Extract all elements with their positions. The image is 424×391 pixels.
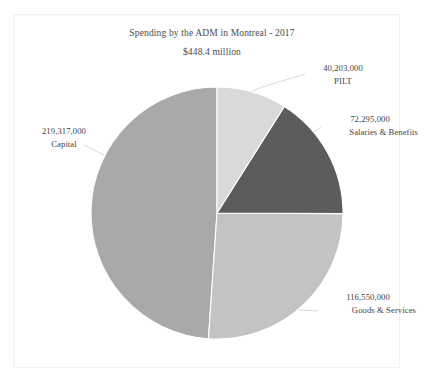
slice-value-goods-and-services: 116,550,000 (320, 291, 416, 304)
slice-name-pilt: PILT (307, 75, 379, 88)
slice-value-capital: 219,317,000 (22, 125, 106, 138)
slice-label-goods-and-services: 116,550,000 Goods & Services (320, 291, 416, 317)
slice-name-goods-and-services: Goods & Services (320, 304, 416, 317)
slice-value-pilt: 40,203,000 (307, 62, 379, 75)
slice-label-capital: 219,317,000 Capital (22, 125, 106, 151)
slice-value-salaries-and-benefits: 72,295,000 (322, 113, 418, 126)
pie-slice-goods-and-services[interactable] (208, 213, 343, 339)
slice-label-salaries-and-benefits: 72,295,000 Salaries & Benefits (322, 113, 418, 139)
slice-name-salaries-and-benefits: Salaries & Benefits (322, 126, 418, 139)
pie-chart (0, 0, 424, 391)
pie-slice-capital[interactable] (91, 87, 217, 339)
slice-name-capital: Capital (22, 138, 106, 151)
pie-slices (91, 87, 343, 339)
chart-page: Spending by the ADM in Montreal - 2017 $… (0, 0, 424, 391)
slice-label-pilt: 40,203,000 PILT (307, 62, 379, 88)
